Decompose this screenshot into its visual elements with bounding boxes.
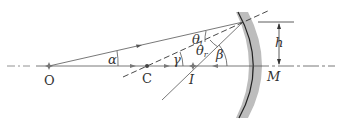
label-object: O: [44, 73, 55, 88]
label-theta-r: θr: [196, 43, 209, 59]
label-vertex: M: [266, 69, 281, 84]
object-star-icon: [45, 62, 53, 70]
theta-i-arc: [205, 31, 206, 42]
arrow-axis-return: [212, 64, 218, 68]
label-gamma: γ: [173, 52, 181, 67]
label-height: h: [275, 35, 283, 50]
label-center: C: [142, 71, 152, 86]
center-point: [145, 64, 149, 68]
image-star-icon: [189, 62, 197, 70]
label-image: I: [188, 72, 195, 87]
height-arrow-down: [277, 59, 281, 65]
mirror-ray-diagram: O C I M h α β γ θi θr: [0, 0, 342, 124]
label-beta: β: [215, 47, 224, 62]
arrow-axis-2: [164, 64, 170, 68]
arrow-incident: [136, 45, 142, 49]
height-arrow-up: [277, 23, 281, 29]
mirror-body: [236, 12, 262, 118]
alpha-arc: [117, 51, 118, 66]
arrow-axis-1: [130, 64, 136, 68]
theta-r-arc: [210, 40, 218, 47]
label-alpha: α: [108, 52, 117, 67]
